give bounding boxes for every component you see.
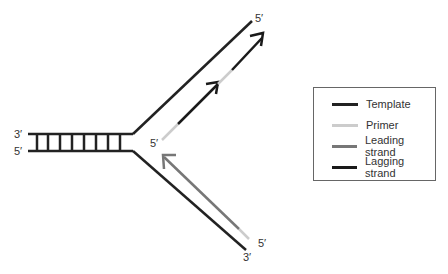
leading-strand [163,155,249,239]
parental-duplex [28,134,133,151]
legend-label: Template [366,98,411,110]
legend-label: Primer [366,119,398,131]
legend-item-lagging: Lagging strand [314,160,435,174]
lagging-strand [162,33,263,140]
lagging-start-label: 5′ [150,137,158,149]
leading-start-label: 5′ [258,237,266,249]
template-swatch [332,103,358,106]
legend-item-leading: Leading strand [314,139,435,153]
primer-swatch [332,124,358,127]
legend-label: Lagging strand [365,155,435,179]
legend: Template Primer Leading strand Lagging s… [313,87,436,181]
upper-template-label: 5′ [255,12,263,24]
duplex-bottom-label: 5′ [14,145,22,157]
duplex-top-label: 3′ [14,128,22,140]
upper-template-strand [133,21,252,134]
lower-template-label: 3′ [243,251,251,263]
lower-template-strand [133,151,246,250]
leading-swatch [332,145,357,148]
legend-item-template: Template [314,97,411,111]
legend-item-primer: Primer [314,118,398,132]
lagging-swatch [332,166,357,169]
